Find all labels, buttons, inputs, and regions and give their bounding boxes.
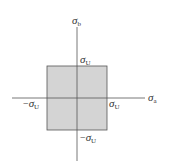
failure-envelope-diagram: σb σa σU σU −σU −σU	[0, 0, 169, 167]
bottom-limit-label: −σU	[80, 131, 96, 145]
right-limit-label: σU	[109, 97, 120, 111]
top-limit-label: σU	[80, 53, 91, 67]
horizontal-axis-label: σa	[148, 91, 157, 105]
left-limit-label: −σU	[23, 97, 39, 111]
vertical-axis-label: σb	[72, 14, 81, 28]
